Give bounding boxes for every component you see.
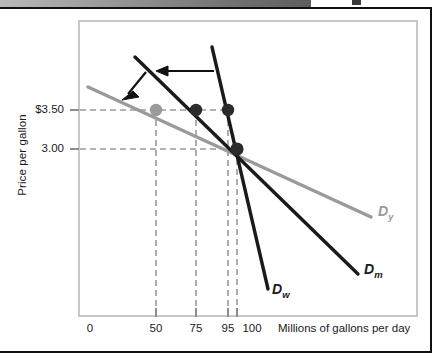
- curve-label-dy: Dy: [378, 203, 393, 222]
- point-dm-75-350: [190, 104, 202, 116]
- point-dy-50-350: [150, 104, 162, 116]
- curve-dm: [135, 57, 358, 274]
- plot-canvas: [0, 9, 430, 351]
- curve-label-dm: Dm: [364, 261, 383, 280]
- point-dw-95-350: [222, 104, 234, 116]
- point-equilibrium-100-300: [230, 142, 243, 155]
- curve-label-dw-text: D: [272, 281, 282, 297]
- curve-label-dm-text: D: [364, 261, 374, 277]
- demand-curves-figure: Price per gallon $3.50 3.00 0 50 75 95 1…: [0, 9, 430, 351]
- top-gradient-bar: [0, 0, 311, 7]
- curve-label-dw: Dw: [272, 281, 290, 300]
- curve-label-dy-text: D: [378, 203, 388, 219]
- rotation-arrow-diagonal-shaft: [128, 72, 146, 94]
- dashed-guides: [80, 110, 237, 308]
- curve-label-dw-subscript: w: [282, 289, 289, 300]
- top-right-page-mark: [352, 0, 361, 5]
- annotation-arrows: [122, 66, 214, 100]
- curve-dw: [212, 47, 268, 289]
- rotation-arrow-horizontal-head: [156, 66, 168, 76]
- curve-label-dm-subscript: m: [374, 269, 382, 280]
- curve-label-dy-subscript: y: [388, 211, 393, 222]
